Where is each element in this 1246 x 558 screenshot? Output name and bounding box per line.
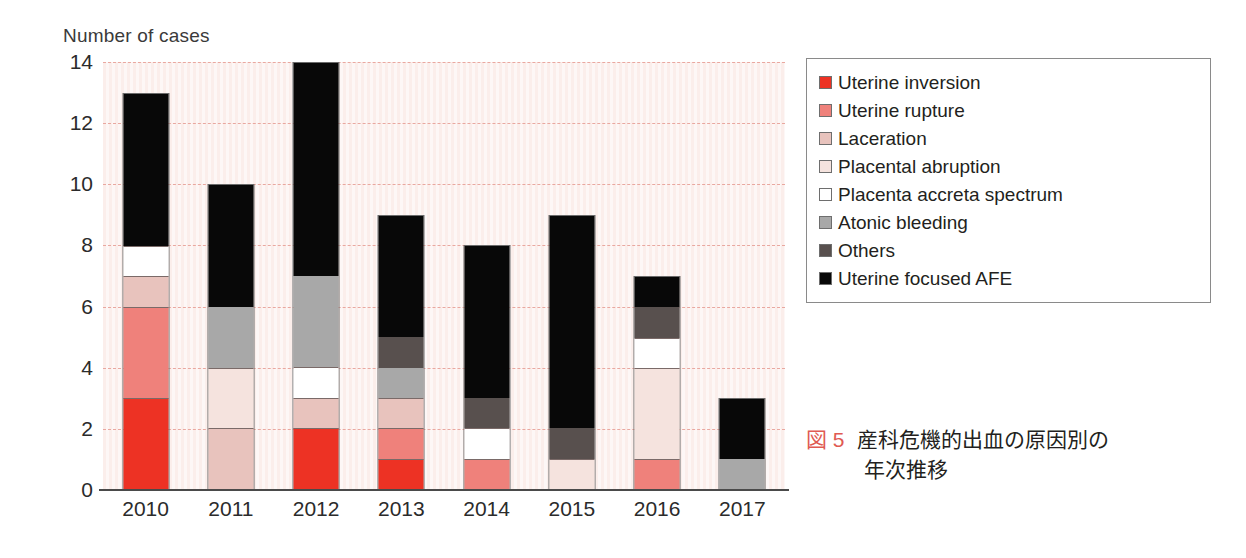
legend-label: Uterine rupture — [838, 101, 965, 120]
bar-segment[interactable] — [549, 459, 594, 489]
x-axis-line — [99, 489, 789, 491]
bar-segment[interactable] — [464, 428, 509, 458]
x-tick-2012: 2012 — [274, 497, 359, 521]
bar-segment[interactable] — [464, 398, 509, 428]
y-tick-4: 4 — [81, 355, 93, 379]
bar-segment[interactable] — [720, 459, 765, 489]
bar-slot-2010 — [103, 62, 188, 490]
plot-area — [103, 62, 785, 490]
y-tick-6: 6 — [81, 294, 93, 318]
stacked-bar-2011[interactable] — [207, 184, 254, 490]
bar-segment[interactable] — [635, 368, 680, 459]
bar-segment[interactable] — [294, 398, 339, 428]
bar-segment[interactable] — [379, 337, 424, 367]
x-tick-2013: 2013 — [359, 497, 444, 521]
legend: Uterine inversionUterine ruptureLacerati… — [806, 58, 1211, 303]
bar-segment[interactable] — [123, 307, 168, 398]
legend-swatch-icon — [819, 216, 832, 229]
legend-label: Uterine inversion — [838, 73, 981, 92]
legend-item-7[interactable]: Uterine focused AFE — [819, 264, 1200, 292]
bar-segment[interactable] — [123, 276, 168, 306]
legend-item-6[interactable]: Others — [819, 236, 1200, 264]
bar-segment[interactable] — [294, 63, 339, 276]
bar-segment[interactable] — [379, 459, 424, 489]
bar-segment[interactable] — [123, 398, 168, 489]
legend-item-1[interactable]: Uterine rupture — [819, 96, 1200, 124]
legend-swatch-icon — [819, 188, 832, 201]
bar-segment[interactable] — [549, 428, 594, 458]
bar-segment[interactable] — [635, 338, 680, 368]
stacked-bar-2015[interactable] — [548, 215, 595, 490]
bar-segment[interactable] — [720, 399, 765, 459]
bar-segment[interactable] — [379, 216, 424, 337]
x-tick-2016: 2016 — [615, 497, 700, 521]
legend-label: Placental abruption — [838, 157, 1001, 176]
bar-segment[interactable] — [208, 428, 253, 489]
stacked-bar-2012[interactable] — [293, 62, 340, 490]
y-tick-8: 8 — [81, 233, 93, 257]
bar-segment[interactable] — [549, 216, 594, 428]
bar-segment[interactable] — [464, 246, 509, 398]
legend-swatch-icon — [819, 160, 832, 173]
legend-swatch-icon — [819, 272, 832, 285]
bar-segment[interactable] — [635, 307, 680, 337]
bar-slot-2016 — [615, 62, 700, 490]
bar-segment[interactable] — [379, 398, 424, 428]
bar-slot-2011 — [188, 62, 273, 490]
bar-slot-2013 — [359, 62, 444, 490]
bar-slot-2017 — [700, 62, 785, 490]
legend-swatch-icon — [819, 132, 832, 145]
bar-segment[interactable] — [635, 277, 680, 307]
legend-item-5[interactable]: Atonic bleeding — [819, 208, 1200, 236]
legend-label: Laceration — [838, 129, 927, 148]
bar-segment[interactable] — [208, 307, 253, 368]
x-tick-2010: 2010 — [103, 497, 188, 521]
y-axis-tick-labels: 02468101214 — [55, 62, 93, 490]
x-tick-2017: 2017 — [700, 497, 785, 521]
y-tick-2: 2 — [81, 416, 93, 440]
bar-segment[interactable] — [208, 185, 253, 306]
x-tick-2015: 2015 — [529, 497, 614, 521]
bar-segment[interactable] — [123, 246, 168, 276]
stacked-bar-2016[interactable] — [634, 276, 681, 490]
stacked-bar-2014[interactable] — [463, 245, 510, 490]
legend-label: Others — [838, 241, 895, 260]
figure-root: Number of cases 02468101214 201020112012… — [0, 0, 1246, 558]
legend-item-3[interactable]: Placental abruption — [819, 152, 1200, 180]
bar-segment[interactable] — [294, 367, 339, 397]
figure-number: 図 5 — [806, 428, 845, 451]
y-tick-10: 10 — [70, 172, 93, 196]
x-axis-tick-labels: 20102011201220132014201520162017 — [103, 497, 785, 521]
legend-label: Atonic bleeding — [838, 213, 968, 232]
figure-caption: 図 5産科危機的出血の原因別の 年次推移 — [806, 425, 1226, 486]
y-tick-0: 0 — [81, 478, 93, 502]
bar-segment[interactable] — [294, 428, 339, 489]
bar-group — [103, 62, 785, 490]
bar-segment[interactable] — [294, 276, 339, 367]
legend-swatch-icon — [819, 76, 832, 89]
stacked-bar-2017[interactable] — [719, 398, 766, 490]
caption-line-2: 年次推移 — [864, 455, 1226, 485]
legend-swatch-icon — [819, 104, 832, 117]
legend-label: Uterine focused AFE — [838, 269, 1012, 288]
legend-swatch-icon — [819, 244, 832, 257]
y-tick-12: 12 — [70, 111, 93, 135]
bar-slot-2012 — [274, 62, 359, 490]
legend-item-2[interactable]: Laceration — [819, 124, 1200, 152]
legend-item-4[interactable]: Placenta accreta spectrum — [819, 180, 1200, 208]
x-tick-2011: 2011 — [188, 497, 273, 521]
y-axis-title: Number of cases — [63, 25, 210, 47]
bar-slot-2014 — [444, 62, 529, 490]
stacked-bar-2013[interactable] — [378, 215, 425, 490]
x-tick-2014: 2014 — [444, 497, 529, 521]
bar-segment[interactable] — [635, 459, 680, 489]
bar-segment[interactable] — [379, 368, 424, 398]
stacked-bar-2010[interactable] — [122, 93, 169, 490]
caption-line-1: 産科危機的出血の原因別の — [857, 428, 1109, 451]
legend-item-0[interactable]: Uterine inversion — [819, 68, 1200, 96]
bar-segment[interactable] — [123, 94, 168, 246]
bar-segment[interactable] — [464, 459, 509, 489]
legend-label: Placenta accreta spectrum — [838, 185, 1063, 204]
bar-segment[interactable] — [379, 428, 424, 458]
bar-segment[interactable] — [208, 368, 253, 429]
